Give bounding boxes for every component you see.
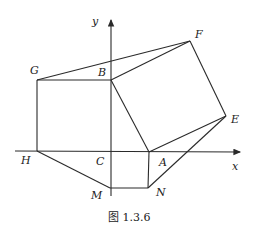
- label-B: B: [97, 66, 106, 79]
- segment-FE: [190, 41, 226, 116]
- label-x-axis: x: [232, 160, 239, 173]
- label-F: F: [194, 28, 203, 41]
- label-M: M: [90, 189, 103, 202]
- label-G: G: [30, 64, 39, 77]
- segment-GF: [37, 41, 190, 80]
- segment-BF: [111, 41, 190, 80]
- label-A: A: [158, 156, 167, 169]
- geometry-figure: y x G B F E H C A M N 图 1.3.6: [0, 0, 253, 235]
- label-N: N: [155, 186, 166, 199]
- label-E: E: [230, 113, 239, 126]
- label-y-axis: y: [91, 15, 99, 28]
- x-axis: [15, 151, 240, 152]
- segment-EA: [149, 116, 226, 152]
- segment-AN: [148, 152, 149, 188]
- segment-BA: [111, 80, 149, 152]
- figure-caption: 图 1.3.6: [108, 211, 151, 224]
- label-H: H: [20, 154, 31, 167]
- label-C: C: [96, 155, 105, 168]
